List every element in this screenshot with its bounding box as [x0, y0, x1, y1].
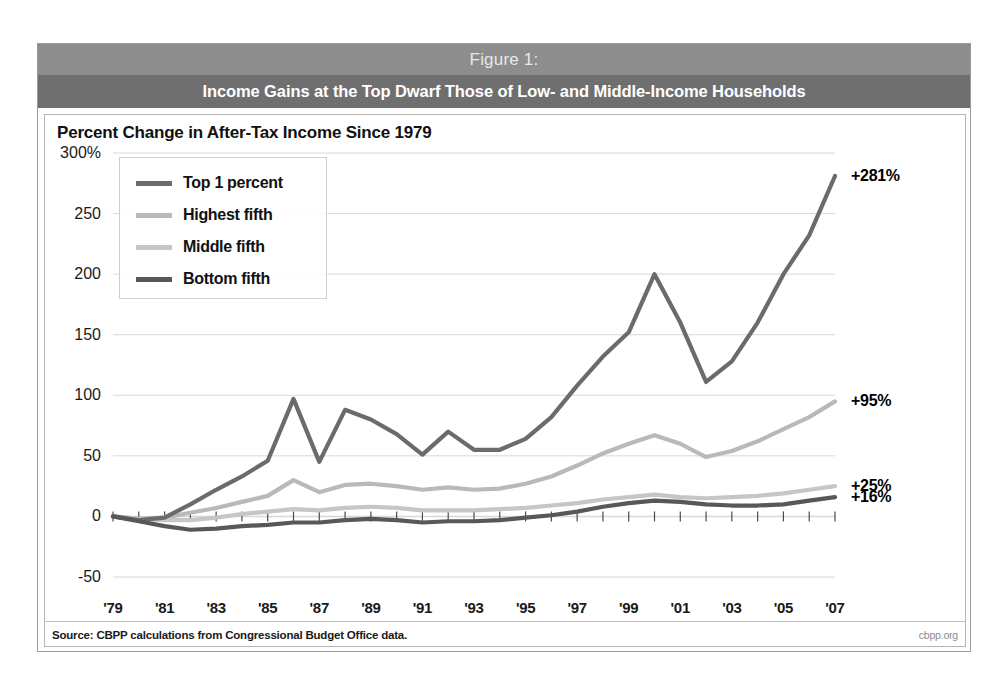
x-axis-tick-label: '01	[658, 599, 702, 616]
figure-footer: Source: CBPP calculations from Congressi…	[44, 621, 966, 647]
figure-header: Figure 1: Income Gains at the Top Dwarf …	[38, 44, 970, 108]
legend-item[interactable]: Middle fifth	[136, 231, 326, 263]
y-axis-tick-label: 50	[45, 447, 101, 465]
x-axis-tick-label: '83	[194, 599, 238, 616]
series-line-highest-fifth	[113, 401, 835, 519]
series-end-label: +95%	[851, 392, 891, 410]
legend-item-label: Middle fifth	[183, 238, 265, 256]
legend-item[interactable]: Top 1 percent	[136, 167, 326, 199]
legend-swatch-icon	[136, 213, 172, 218]
series-end-label: +281%	[851, 167, 900, 185]
x-axis-tick-label: '95	[504, 599, 548, 616]
figure-number-label: Figure 1:	[470, 50, 539, 70]
y-axis-tick-label: 250	[45, 205, 101, 223]
x-axis-tick-label: '89	[349, 599, 393, 616]
x-axis-tick-label: '91	[400, 599, 444, 616]
x-axis-tick-label: '03	[710, 599, 754, 616]
figure-number-band: Figure 1:	[38, 44, 970, 75]
legend-item-label: Top 1 percent	[183, 174, 283, 192]
y-axis-tick-label: -50	[45, 568, 101, 586]
y-axis-tick-label: 200	[45, 265, 101, 283]
x-axis-tick-label: '07	[813, 599, 857, 616]
x-axis-tick-label: '81	[143, 599, 187, 616]
legend-item[interactable]: Bottom fifth	[136, 263, 326, 295]
chart-card: Percent Change in After-Tax Income Since…	[44, 114, 966, 647]
x-axis-tick-label: '79	[91, 599, 135, 616]
y-axis-tick-label: 0	[45, 507, 101, 525]
figure-headline: Income Gains at the Top Dwarf Those of L…	[202, 82, 805, 101]
x-axis-tick-label: '99	[607, 599, 651, 616]
legend-item[interactable]: Highest fifth	[136, 199, 326, 231]
x-axis-tick-label: '87	[297, 599, 341, 616]
legend-item-label: Bottom fifth	[183, 270, 270, 288]
watermark-label: cbpp.org	[919, 629, 958, 641]
chart-legend: Top 1 percentHighest fifthMiddle fifthBo…	[119, 157, 327, 299]
source-note: Source: CBPP calculations from Congressi…	[52, 629, 407, 641]
legend-swatch-icon	[136, 277, 172, 282]
series-end-label: +16%	[851, 488, 891, 506]
y-axis-tick-label: 100	[45, 386, 101, 404]
y-axis-tick-label: 150	[45, 326, 101, 344]
legend-swatch-icon	[136, 245, 172, 250]
x-axis-tick-label: '93	[452, 599, 496, 616]
x-axis-tick-label: '97	[555, 599, 599, 616]
x-axis-tick-label: '05	[761, 599, 805, 616]
figure-frame: Figure 1: Income Gains at the Top Dwarf …	[37, 43, 971, 652]
x-axis-tick-label: '85	[246, 599, 290, 616]
y-axis-tick-label: 300%	[45, 144, 101, 162]
legend-item-label: Highest fifth	[183, 206, 272, 224]
figure-headline-band: Income Gains at the Top Dwarf Those of L…	[38, 75, 970, 108]
legend-swatch-icon	[136, 181, 172, 186]
